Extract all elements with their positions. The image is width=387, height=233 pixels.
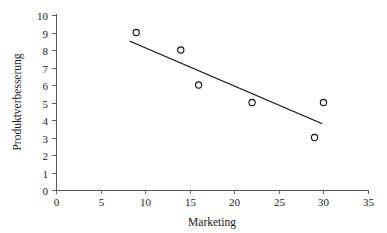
- y-tick-label: 2: [43, 150, 49, 162]
- x-tick-label: 35: [363, 196, 375, 208]
- y-tick-label: 0: [43, 185, 49, 197]
- y-tick-label: 9: [43, 28, 49, 40]
- plot-canvas: 012345678910 05101520253035 Marketing Pr…: [0, 0, 387, 233]
- x-tick-label: 15: [185, 196, 197, 208]
- y-tick-label: 4: [43, 115, 49, 127]
- y-tick-label: 7: [43, 63, 49, 75]
- y-tick-label: 5: [43, 98, 49, 110]
- scatter-chart-figure: 012345678910 05101520253035 Marketing Pr…: [0, 0, 387, 233]
- y-axis-title: Produktverbesserung: [11, 53, 24, 150]
- x-axis-title: Marketing: [188, 216, 236, 229]
- x-tick-label: 5: [99, 196, 105, 208]
- x-tick-label: 25: [274, 196, 286, 208]
- y-tick-label: 6: [43, 80, 49, 92]
- y-tick-label: 10: [37, 10, 49, 22]
- y-tick-label: 1: [43, 168, 49, 180]
- x-tick-label: 0: [54, 196, 60, 208]
- y-tick-label: 3: [43, 133, 49, 145]
- y-tick-label: 8: [43, 45, 49, 57]
- x-tick-label: 10: [140, 196, 152, 208]
- x-tick-label: 20: [229, 196, 241, 208]
- x-tick-label: 30: [318, 196, 330, 208]
